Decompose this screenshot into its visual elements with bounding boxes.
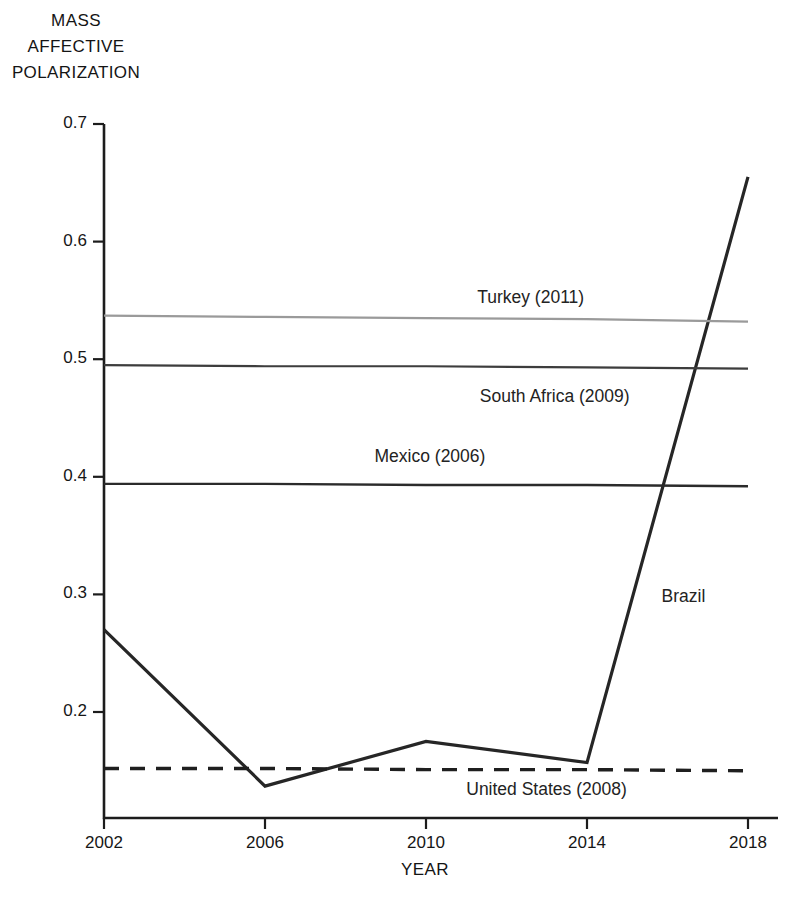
series-label-south-africa-2009: South Africa (2009) xyxy=(480,386,630,407)
series-line-brazil xyxy=(104,177,748,786)
y-tick-label: 0.5 xyxy=(41,348,87,368)
series-line-united-states-2008 xyxy=(104,768,748,770)
series-label-mexico-2006: Mexico (2006) xyxy=(375,446,486,467)
x-tick-label: 2010 xyxy=(394,833,458,853)
series-label-turkey-2011: Turkey (2011) xyxy=(477,287,584,308)
series-line-turkey-2011 xyxy=(104,316,748,322)
x-tick-label: 2018 xyxy=(716,833,780,853)
chart-figure: MASS AFFECTIVE POLARIZATION 0.20.30.40.5… xyxy=(0,0,805,909)
series-layer xyxy=(104,177,748,786)
y-tick-label: 0.4 xyxy=(41,466,87,486)
y-tick-label: 0.2 xyxy=(41,701,87,721)
series-label-brazil: Brazil xyxy=(662,586,706,607)
x-axis-ticks xyxy=(104,818,748,829)
series-line-south-africa-2009 xyxy=(104,365,748,369)
axis-spines xyxy=(104,124,778,818)
series-line-mexico-2006 xyxy=(104,484,748,486)
y-tick-label: 0.7 xyxy=(41,113,87,133)
y-tick-label: 0.6 xyxy=(41,231,87,251)
y-tick-label: 0.3 xyxy=(41,583,87,603)
series-label-united-states-2008: United States (2008) xyxy=(466,779,627,800)
y-axis-ticks xyxy=(93,124,104,712)
x-tick-label: 2002 xyxy=(72,833,136,853)
x-tick-label: 2014 xyxy=(555,833,619,853)
x-tick-label: 2006 xyxy=(233,833,297,853)
x-axis-title: YEAR xyxy=(370,860,480,880)
